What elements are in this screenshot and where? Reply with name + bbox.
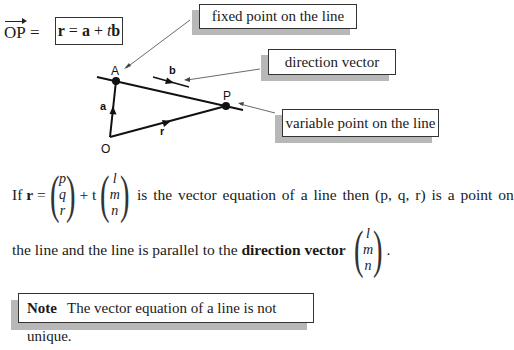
note-label: Note (27, 300, 57, 316)
text-if: If (12, 186, 22, 204)
note-box: NoteThe vector equation of a line is not… (18, 293, 314, 323)
point-P (222, 102, 230, 110)
eq-a: a (82, 22, 90, 39)
paragraph-line-2: the line and the line is parallel to the… (12, 225, 390, 275)
vector-lmn: ( l m n ) (96, 169, 133, 221)
callout-arrow-variable-icon (238, 102, 244, 106)
vector-equation-box: r = a + tb (55, 17, 123, 45)
eq-plus: + (90, 22, 107, 39)
arrow-a-icon (110, 106, 117, 115)
paragraph-line-1: If r = ( p q r ) + t ( l m n ) is the ve… (12, 170, 514, 220)
point-A (112, 77, 120, 85)
callout-arrow-fixed-icon (124, 63, 131, 69)
label-b: b (169, 64, 176, 76)
text-line1-rest: is the vector equation of a line then (p… (137, 186, 514, 204)
note-text: The vector equation of a line is not uni… (27, 300, 277, 344)
label-O: O (101, 142, 110, 156)
op-equals: = (30, 23, 40, 42)
label-P: P (223, 89, 231, 103)
eq-b: b (111, 22, 120, 39)
label-r: r (160, 125, 165, 137)
text-equals: = (37, 186, 46, 204)
text-period: . (386, 241, 390, 259)
label-A: A (111, 64, 119, 78)
text-r-bold: r (26, 186, 33, 204)
callout-variable-point: variable point on the line (282, 109, 439, 137)
vector-pqr: ( p q r ) (46, 169, 80, 221)
op-vector-label: OP = (4, 23, 40, 43)
label-a: a (100, 100, 107, 112)
text-direction-vector-bold: direction vector (241, 241, 345, 259)
eq-equals: = (65, 22, 82, 39)
vector-lmn-direction: ( l m n ) (350, 224, 387, 276)
op-text: OP (4, 23, 26, 43)
text-line2-start: the line and the line is parallel to the (12, 241, 238, 259)
callout-arrow-direction-icon (184, 77, 190, 82)
arrow-b-icon (165, 78, 174, 85)
callout-fixed-point: fixed point on the line (199, 4, 357, 29)
text-plus-t: + t (79, 186, 96, 204)
callout-direction-vector: direction vector (268, 49, 396, 75)
eq-r: r (58, 22, 65, 39)
